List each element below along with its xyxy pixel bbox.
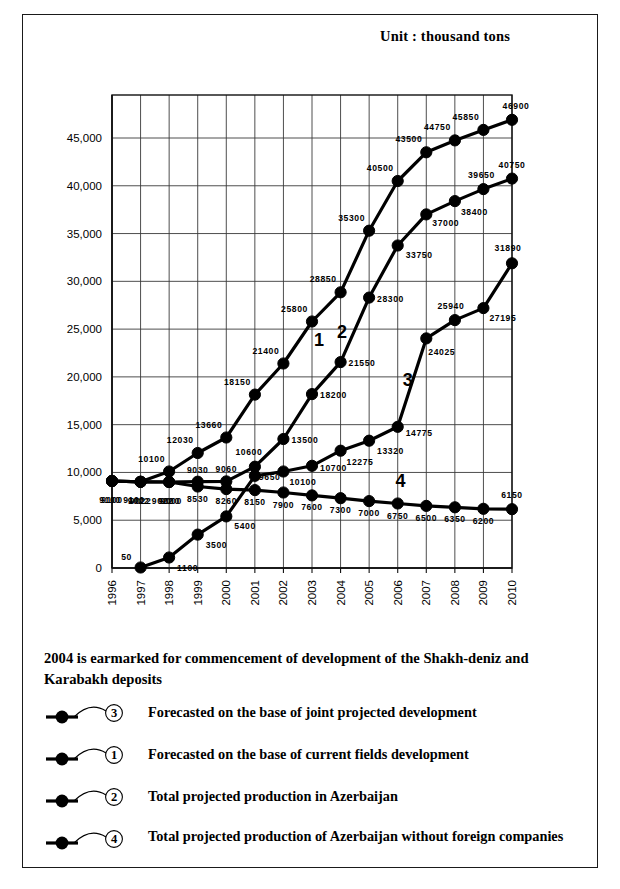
data-point — [192, 481, 203, 492]
point-label: 35300 — [338, 213, 365, 223]
x-tick-label: 2004 — [335, 579, 347, 605]
data-point — [306, 460, 317, 471]
data-point — [364, 496, 375, 507]
x-axis-tick-labels: 1996199719981999200020012002200320042005… — [106, 579, 518, 605]
point-label: 7900 — [273, 500, 295, 510]
x-tick-label: 2005 — [363, 580, 375, 606]
x-tick-label: 2007 — [420, 580, 432, 606]
data-point — [249, 485, 260, 496]
legend-label: Total projected production in Azerbaijan — [148, 784, 398, 806]
y-tick-label: 20,000 — [67, 371, 102, 383]
point-label: 12275 — [347, 457, 374, 467]
x-tick-label: 1998 — [163, 580, 175, 606]
legend-marker-number: 1 — [111, 748, 117, 762]
legend-item[interactable]: 2 Total projected production in Azerbaij… — [44, 784, 574, 810]
data-point — [164, 476, 175, 487]
y-tick-label: 40,000 — [67, 180, 102, 192]
point-label: 44750 — [424, 122, 451, 132]
legend-item[interactable]: 4 Total projected production of Azerbaij… — [44, 826, 574, 852]
series-number-4: 4 — [396, 471, 406, 491]
series-number-1: 1 — [314, 330, 324, 350]
point-label: 9650 — [259, 472, 281, 482]
point-label: 38400 — [461, 207, 488, 217]
point-label: 7000 — [358, 508, 380, 518]
point-label: 7600 — [301, 502, 323, 512]
point-label: 13320 — [377, 446, 404, 456]
data-point — [306, 490, 317, 501]
point-label: 28850 — [310, 274, 337, 284]
y-tick-label: 10,000 — [67, 466, 102, 478]
point-label: 7300 — [330, 505, 352, 515]
data-point — [278, 433, 289, 444]
data-point — [278, 358, 289, 369]
legend-item[interactable]: 3 Forecasted on the base of joint projec… — [44, 700, 574, 726]
y-tick-label: 15,000 — [67, 419, 102, 431]
data-point — [449, 196, 460, 207]
data-point — [221, 432, 232, 443]
point-label: 12030 — [167, 435, 194, 445]
data-point — [392, 498, 403, 509]
legend-label: Forecasted on the base of joint projecte… — [148, 700, 477, 722]
point-label: 39650 — [468, 170, 495, 180]
data-point — [335, 445, 346, 456]
point-label: 46900 — [503, 101, 530, 111]
point-label: 10600 — [235, 447, 262, 457]
point-label: 9022 — [130, 496, 152, 506]
chart-legend: 3 Forecasted on the base of joint projec… — [44, 700, 574, 868]
point-label: 25940 — [437, 301, 464, 311]
point-label: 21550 — [349, 358, 376, 368]
data-point — [506, 504, 517, 515]
point-label: 45850 — [452, 112, 479, 122]
point-label: 13660 — [195, 420, 222, 430]
chart-page: Unit : thousand tons 9100902210100120301… — [0, 0, 620, 889]
point-label: 10100 — [289, 477, 316, 487]
point-label: 8150 — [244, 497, 266, 507]
data-point — [221, 511, 232, 522]
data-point — [392, 175, 403, 186]
data-point — [478, 184, 489, 195]
point-label: 18150 — [224, 377, 251, 387]
data-point — [221, 484, 232, 495]
data-point — [392, 421, 403, 432]
data-point — [506, 258, 517, 269]
x-tick-label: 2008 — [449, 580, 461, 606]
data-point — [421, 500, 432, 511]
point-label: 24025 — [428, 347, 455, 357]
legend-symbol-1: 1 — [44, 742, 148, 768]
x-tick-label: 2002 — [277, 580, 289, 606]
data-point — [249, 389, 260, 400]
point-label: 28300 — [377, 294, 404, 304]
line-chart: 9100902210100120301366018150214002580028… — [0, 0, 620, 640]
data-point — [364, 225, 375, 236]
y-tick-label: 25,000 — [67, 323, 102, 335]
data-point — [449, 315, 460, 326]
point-label: 14775 — [406, 428, 433, 438]
y-axis-tick-labels: 05,00010,00015,00020,00025,00030,00035,0… — [67, 132, 102, 574]
data-point — [364, 435, 375, 446]
data-point — [135, 476, 146, 487]
data-point — [335, 287, 346, 298]
legend-item[interactable]: 1 Forecasted on the base of current fiel… — [44, 742, 574, 768]
point-label: 3500 — [206, 540, 228, 550]
x-tick-label: 2001 — [249, 580, 261, 606]
point-label: 40750 — [499, 160, 526, 170]
point-label: 50 — [121, 552, 132, 562]
point-label: 21400 — [252, 346, 279, 356]
data-point — [306, 389, 317, 400]
point-label: 5400 — [234, 521, 256, 531]
data-point — [335, 493, 346, 504]
point-label: 1100 — [177, 563, 198, 573]
point-label: 33750 — [406, 250, 433, 260]
data-point — [392, 240, 403, 251]
series-number-3: 3 — [403, 370, 413, 390]
chart-note: 2004 is earmarked for commencement of de… — [44, 648, 564, 689]
point-label: 6200 — [473, 516, 495, 526]
data-point — [306, 316, 317, 327]
point-label: 40500 — [367, 163, 394, 173]
data-point — [449, 135, 460, 146]
x-tick-label: 1997 — [135, 580, 147, 606]
point-label: 9060 — [216, 464, 238, 474]
point-label: 10700 — [320, 463, 347, 473]
point-label: 25800 — [281, 304, 308, 314]
point-label: 9000 — [158, 496, 180, 506]
